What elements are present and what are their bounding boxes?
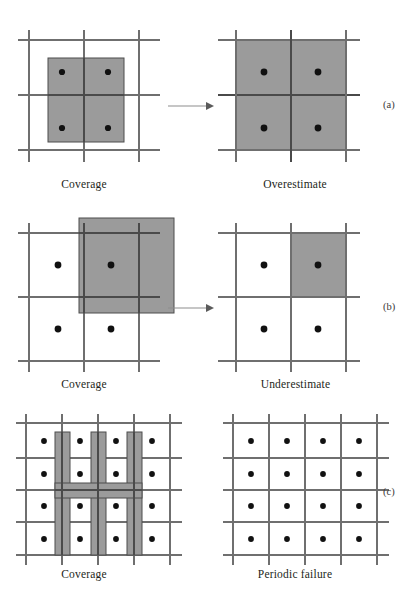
panel-b-coverage bbox=[0, 200, 200, 375]
sample-dot bbox=[149, 471, 155, 477]
sample-dot bbox=[41, 536, 47, 542]
sample-dot bbox=[105, 69, 111, 75]
row-label-a: (a) bbox=[383, 99, 395, 110]
sample-dot bbox=[113, 536, 119, 542]
sample-dot bbox=[77, 438, 83, 444]
sample-dot bbox=[41, 471, 47, 477]
sample-dot bbox=[356, 503, 362, 509]
sample-dot bbox=[108, 326, 115, 333]
sample-dot bbox=[149, 438, 155, 444]
figure-row-b: Coverage Underestimate (b) bbox=[0, 200, 417, 400]
sample-dot bbox=[55, 326, 62, 333]
panel-a-overestimate bbox=[210, 0, 410, 175]
sample-dot bbox=[113, 438, 119, 444]
sample-dot bbox=[248, 471, 254, 477]
caption-a-left: Coverage bbox=[24, 178, 144, 190]
sample-dot bbox=[320, 536, 326, 542]
figure-row-c: Coverage Periodic failure (c) bbox=[0, 400, 417, 607]
sample-dot bbox=[356, 536, 362, 542]
sample-dot bbox=[284, 536, 290, 542]
sample-dot bbox=[59, 69, 65, 75]
sample-dot bbox=[41, 503, 47, 509]
caption-a-right: Overestimate bbox=[230, 178, 360, 190]
sample-dot bbox=[149, 536, 155, 542]
caption-b-right: Underestimate bbox=[228, 378, 363, 390]
sample-dot bbox=[77, 536, 83, 542]
sample-dot bbox=[261, 69, 268, 76]
sample-dot bbox=[315, 125, 322, 132]
sample-dot bbox=[356, 438, 362, 444]
sample-dot bbox=[113, 503, 119, 509]
row-label-c: (c) bbox=[383, 486, 395, 497]
sample-dot bbox=[248, 503, 254, 509]
caption-b-left: Coverage bbox=[24, 378, 144, 390]
sample-dot bbox=[248, 536, 254, 542]
panel-b-underestimate bbox=[210, 200, 410, 375]
sample-dot bbox=[248, 438, 254, 444]
sample-dot bbox=[320, 503, 326, 509]
sample-dot bbox=[284, 503, 290, 509]
coverage-shape-b bbox=[79, 218, 174, 313]
row-label-b: (b) bbox=[383, 301, 395, 312]
panel-a-coverage bbox=[0, 0, 200, 175]
panel-c-periodic-failure bbox=[207, 400, 407, 570]
sample-dot bbox=[315, 69, 322, 76]
sample-dot bbox=[261, 125, 268, 132]
sample-dot bbox=[284, 471, 290, 477]
sample-dot bbox=[113, 471, 119, 477]
sample-dot bbox=[55, 262, 62, 269]
sample-dot bbox=[261, 262, 268, 269]
caption-c-left: Coverage bbox=[24, 568, 144, 580]
sample-dot bbox=[320, 438, 326, 444]
sample-dot bbox=[261, 326, 268, 333]
sample-dot bbox=[320, 471, 326, 477]
sample-dot bbox=[105, 125, 111, 131]
panel-c-coverage bbox=[0, 400, 200, 570]
sample-dot bbox=[356, 471, 362, 477]
sample-dot bbox=[41, 438, 47, 444]
figure-container: Coverage Overestimate (a) bbox=[0, 0, 417, 607]
sample-dot bbox=[315, 326, 322, 333]
sample-dot bbox=[77, 471, 83, 477]
figure-row-a: Coverage Overestimate (a) bbox=[0, 0, 417, 200]
sample-dot bbox=[77, 503, 83, 509]
sample-dot bbox=[59, 125, 65, 131]
sample-dot bbox=[149, 503, 155, 509]
caption-c-right: Periodic failure bbox=[225, 568, 365, 580]
sample-dot bbox=[315, 262, 322, 269]
sample-dot bbox=[108, 262, 115, 269]
sample-dot bbox=[284, 438, 290, 444]
